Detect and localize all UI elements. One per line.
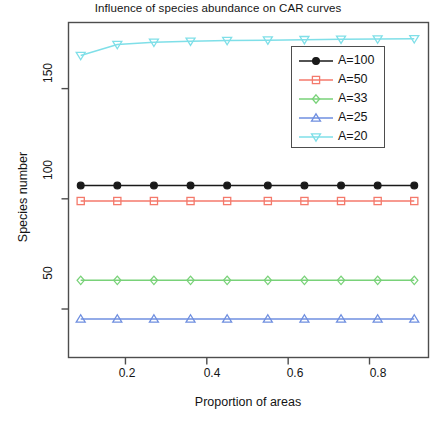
series-A-50 bbox=[77, 197, 418, 204]
series-A-100 bbox=[77, 182, 417, 189]
legend: A=100 A=50 A=33 A=25 A=20 bbox=[291, 46, 385, 148]
legend-key-icon-1 bbox=[297, 70, 335, 90]
series-A-25 bbox=[76, 315, 419, 322]
legend-entry-1: A=50 bbox=[292, 70, 386, 90]
legend-entry-4: A=20 bbox=[292, 127, 386, 147]
legend-key-icon-3 bbox=[297, 108, 335, 128]
legend-entry-3: A=25 bbox=[292, 108, 386, 128]
legend-label-1: A=50 bbox=[338, 72, 368, 86]
series-A-33 bbox=[77, 276, 418, 284]
legend-key-icon-4 bbox=[297, 127, 335, 147]
legend-key-icon-2 bbox=[297, 89, 335, 109]
legend-label-4: A=20 bbox=[338, 129, 368, 143]
legend-label-3: A=25 bbox=[338, 110, 368, 124]
legend-label-2: A=33 bbox=[338, 91, 368, 105]
legend-entry-2: A=33 bbox=[292, 89, 386, 109]
legend-entry-0: A=100 bbox=[292, 51, 386, 71]
x-axis-ticks bbox=[125, 358, 369, 365]
legend-label-0: A=100 bbox=[338, 53, 375, 67]
legend-key-icon-0 bbox=[297, 51, 335, 71]
y-axis-ticks bbox=[62, 89, 69, 309]
chart-figure: Influence of species abundance on CAR cu… bbox=[0, 0, 436, 424]
